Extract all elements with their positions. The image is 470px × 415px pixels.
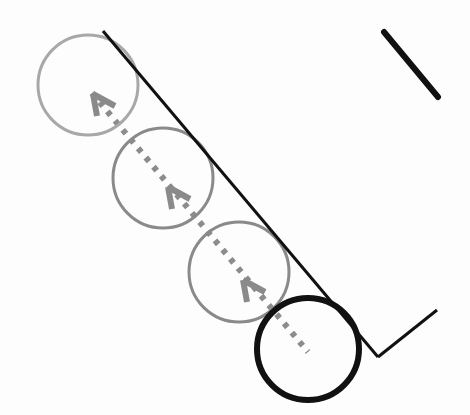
thick-slash-mark [384,32,438,97]
ball-wall-diagram [0,0,470,415]
final-ball-position [257,298,359,400]
diagram-canvas [0,0,470,415]
wall-corner-line [378,310,437,357]
ghost-ball-position-1 [38,35,138,135]
slanted-wall-line [103,31,378,357]
